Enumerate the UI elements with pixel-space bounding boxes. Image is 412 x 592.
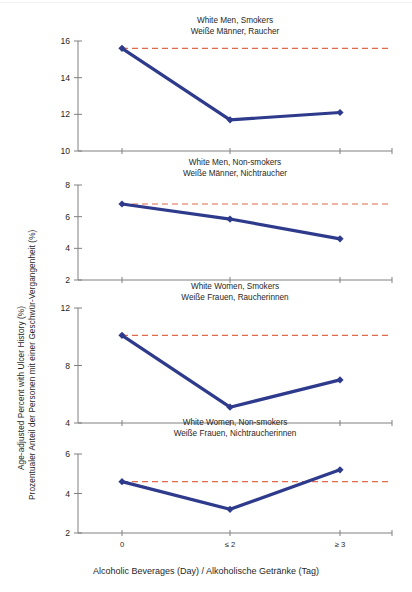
- data-point-marker: [118, 200, 125, 207]
- panel-title-english: White Men, Non-smokers: [78, 158, 392, 169]
- x-tick-label: ≤ 2: [225, 540, 236, 549]
- series-line: [122, 204, 340, 239]
- data-point-marker: [118, 332, 125, 339]
- y-tick-label: 12: [46, 303, 70, 313]
- panel-title-german: Weiße Frauen, Raucherinnen: [78, 293, 392, 304]
- panel-title-english: White Women, Smokers: [78, 282, 392, 293]
- cropped-title-rule: [0, 2, 412, 3]
- panel-title-english: White Women, Non-smokers: [78, 418, 392, 429]
- y-tick-label: 8: [46, 180, 70, 190]
- y-axis-title: Age-adjusted Percent with Ulcer History …: [0, 0, 40, 592]
- data-point-marker: [226, 215, 233, 222]
- series-line: [122, 470, 340, 510]
- y-axis-title-german: Prozentualer Anteil der Personen mit ein…: [27, 230, 38, 500]
- y-axis-title-english: Age-adjusted Percent with Ulcer History …: [16, 306, 27, 470]
- panel-title: White Men, Non-smokersWeiße Männer, Nich…: [78, 158, 392, 179]
- y-tick-label: 4: [46, 418, 70, 428]
- x-tick-label: 0: [120, 540, 124, 549]
- y-tick-label: 16: [46, 36, 70, 46]
- y-tick-label: 8: [46, 361, 70, 371]
- panel-title: White Women, SmokersWeiße Frauen, Rauche…: [78, 282, 392, 303]
- data-point-marker: [336, 109, 343, 116]
- y-tick-label: 12: [46, 109, 70, 119]
- y-tick-label: 4: [46, 489, 70, 499]
- panel-title-german: Weiße Männer, Nichtraucher: [78, 169, 392, 180]
- data-point-marker: [226, 116, 233, 123]
- data-point-marker: [118, 478, 125, 485]
- y-tick-label: 2: [46, 528, 70, 538]
- data-point-marker: [336, 376, 343, 383]
- y-tick-label: 6: [46, 449, 70, 459]
- y-tick-label: 10: [46, 146, 70, 156]
- panel-title: White Women, Non-smokersWeiße Frauen, Ni…: [78, 418, 392, 439]
- x-tick-label: ≥ 3: [335, 540, 346, 549]
- panel-title-german: Weiße Frauen, Nichtraucherinnen: [78, 429, 392, 440]
- data-point-marker: [336, 466, 343, 473]
- y-tick-label: 14: [46, 73, 70, 83]
- panel-title-english: White Men, Smokers: [78, 16, 392, 27]
- data-point-marker: [336, 235, 343, 242]
- x-axis-title: Alcoholic Beverages (Day) / Alkoholische…: [0, 566, 412, 576]
- data-point-marker: [226, 404, 233, 411]
- figure-root: Age-adjusted Percent with Ulcer History …: [0, 0, 412, 592]
- y-tick-label: 2: [46, 275, 70, 285]
- panel-title-german: Weiße Männer, Raucher: [78, 27, 392, 38]
- data-point-marker: [226, 506, 233, 513]
- y-tick-label: 4: [46, 243, 70, 253]
- y-tick-label: 6: [46, 212, 70, 222]
- data-point-marker: [118, 45, 125, 52]
- panel-title: White Men, SmokersWeiße Männer, Raucher: [78, 16, 392, 37]
- series-line: [122, 48, 340, 120]
- series-line: [122, 335, 340, 407]
